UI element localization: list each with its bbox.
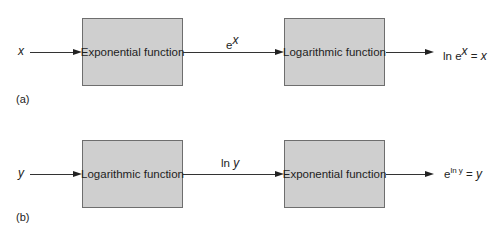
arrow-line bbox=[183, 52, 276, 53]
arrow-head-icon bbox=[425, 49, 434, 55]
middle-label-ln-y: ln y bbox=[221, 156, 239, 170]
arrow-line bbox=[30, 52, 74, 53]
arrow-line bbox=[386, 174, 426, 175]
output-label-e-ln-y: eln y = y bbox=[444, 166, 482, 181]
arrow-line bbox=[386, 52, 426, 53]
panel-label-a: (a) bbox=[16, 93, 29, 105]
exponential-function-box: Exponential function bbox=[284, 140, 385, 208]
arrow-head-icon bbox=[425, 171, 434, 177]
panel-label-b: (b) bbox=[16, 211, 29, 223]
input-y: y bbox=[18, 166, 24, 180]
input-x: x bbox=[18, 44, 24, 58]
middle-label-e-x: ex bbox=[226, 33, 238, 51]
exponential-function-box: Exponential function bbox=[82, 18, 183, 86]
logarithmic-function-box: Logarithmic function bbox=[82, 140, 183, 208]
arrow-line bbox=[183, 174, 276, 175]
arrow-line bbox=[30, 174, 74, 175]
logarithmic-function-box: Logarithmic function bbox=[284, 18, 385, 86]
output-label-ln-ex: ln ex = x bbox=[443, 44, 487, 63]
